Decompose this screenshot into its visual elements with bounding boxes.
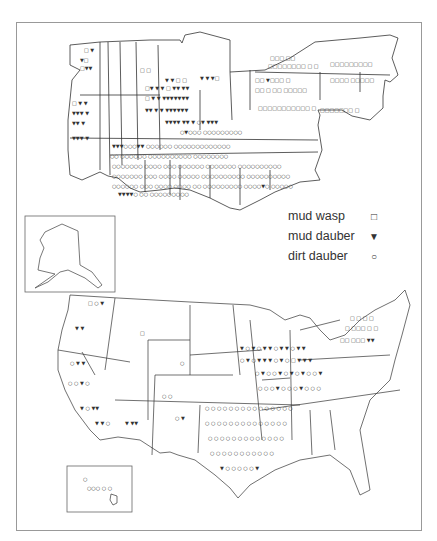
svg-text:□: □ [140, 330, 145, 336]
legend-item-dirt-dauber: dirt dauber ○ [288, 246, 380, 266]
svg-text:▼ ○ ▼ ○ ▼ ▼ ○ ▼ ▼ ○ ▼ ▼: ▼ ○ ▼ ○ ▼ ▼ ○ ▼ ▼ ○ ▼ ▼ [240, 345, 306, 351]
svg-text:▼ ○ ▼▼: ▼ ○ ▼▼ [80, 405, 99, 411]
svg-text:▼ ▼▼: ▼ ▼▼ [125, 420, 138, 426]
svg-text:□ □ □ □: □ □ □ □ [350, 315, 374, 321]
legend-label: dirt dauber [288, 249, 368, 263]
square-icon: □ [368, 211, 380, 222]
svg-text:□□□□□□□ □: □□□□□□□ □ [320, 107, 360, 113]
svg-text:▼▼▼ ▼: ▼▼▼ ▼ [72, 110, 89, 116]
alaska-shape [35, 224, 102, 288]
svg-text:○ ▼: ○ ▼ [175, 415, 185, 421]
svg-text:○▼○○○ ○○○○○○○○○: ○▼○○○ ○○○○○○○○○ [180, 129, 243, 135]
svg-text:○ ▼ ○ ▼ ▼ ▼ ○ ▼ ○ □ ▼ ▼ ▼: ○ ▼ ○ ▼ ▼ ▼ ○ ▼ ○ □ ▼ ▼ ▼ [240, 357, 312, 363]
svg-text:□ □: □ □ [140, 67, 151, 73]
legend-label: mud dauber [288, 229, 368, 243]
svg-text:□□□□ □□□□□: □□□□ □□□□□ [330, 77, 374, 83]
svg-text:▼▼▼○○○▼▼ ○○○○○○ ○○○○○○○○○○○○○: ▼▼▼○○○▼▼ ○○○○○○ ○○○○○○○○○○○○○ [112, 143, 231, 149]
svg-text:□□□□□□□□□: □□□□□□□□□ [330, 61, 373, 67]
svg-text:▼▼▼ ▼: ▼▼▼ ▼ [72, 135, 89, 141]
svg-text:○○○○○○○ ○○○ ○○○○ ○○○○○ ○○○○○○○: ○○○○○○○ ○○○ ○○○○ ○○○○○ ○○○○○○○○○○ ○○○○○○… [112, 173, 291, 179]
svg-text:□ ▼ ▼ ▼▼▼▼▼▼▼: □ ▼ ▼ ▼▼▼▼▼▼▼ [145, 95, 189, 101]
svg-text:○ ○ ○ ○ ○ ○ ○ ○ ○ ○ ○: ○ ○ ○ ○ ○ ○ ○ ○ ○ ○ ○ [210, 450, 275, 456]
svg-text:□▼ ▼ ▼ □ ▼▼ ▼▼: □▼ ▼ ▼ □ ▼▼ ▼▼ [145, 85, 189, 91]
svg-text:□ □□□ □ □: □ □□□ □ □ [345, 325, 378, 331]
svg-text:○ ○ ○ ▼ ○ ○ ○ ▼ ○ ○ ○: ○ ○ ○ ▼ ○ ○ ○ ▼ ○ ○ ○ [258, 385, 321, 391]
svg-text:□□□ □□: □□□ □□ [270, 55, 295, 61]
svg-text:○ ○ ▼ ○: ○ ○ ▼ ○ [68, 380, 90, 386]
svg-text:□ ▼ ▼: □ ▼ ▼ [72, 100, 88, 106]
svg-text:○ ○ ○ ○ ○ ○ ○ ○ ○ ○ ○ ○ ○ ○: ○ ○ ○ ○ ○ ○ ○ ○ ○ ○ ○ ○ ○ ○ [205, 420, 287, 426]
svg-text:▼▼▼▼○ ○○ ○○○○○○○○○: ▼▼▼▼○ ○○ ○○○○○○○○○ [118, 191, 190, 197]
svg-text:▼ ○ ○ ○ ○ ○ ▼: ▼ ○ ○ ○ ○ ○ ▼ [220, 465, 259, 471]
svg-text:○ ○ ○ ○ ○ ○ ○ ○ ○ ○ ○ ○ ○ ○ ○: ○ ○ ○ ○ ○ ○ ○ ○ ○ ○ ○ ○ ○ ○ ○ [205, 405, 293, 411]
svg-text:○○○ ○ ○: ○○○ ○ ○ [87, 485, 113, 491]
maps-svg: □ ▼▼□□▼▼ □ □▼ ▼ □ □▼ ▼ ▼□ □□□ □□□□□□□□□□… [0, 0, 437, 541]
svg-text:▼ ▼ ▼□: ▼ ▼ ▼□ [200, 75, 220, 81]
svg-text:□ ○ ▼: □ ○ ▼ [88, 300, 104, 306]
top-map-symbols: □ ▼▼□□▼▼ □ □▼ ▼ □ □▼ ▼ ▼□ □□□ □□□□□□□□□□… [72, 47, 374, 197]
svg-text:○ ▼ ○ ○ ▼ ○ ▼ ○ ▼ ○ ○ ▼: ○ ▼ ○ ○ ▼ ○ ▼ ○ ▼ ○ ○ ▼ [255, 370, 322, 376]
us-map-symbols: □ ○ ▼▼ ▼○ ▼ ▼ ○ ○ ▼ ○▼ ○ ▼▼▼ ▼ ○ □○○ ○ ▼… [68, 300, 378, 471]
svg-text:□□ □□□ ▼▼: □□ □□□ ▼▼ [340, 337, 375, 343]
svg-text:□ ▼: □ ▼ [84, 47, 94, 53]
svg-text:▼▼▼▼ ▼▼ ▼ ○▼ ▼▼▼: ▼▼▼▼ ▼▼ ▼ ○▼ ▼▼▼ [165, 119, 218, 125]
svg-text:▼▼ ▼: ▼▼ ▼ [72, 120, 85, 126]
svg-text:▼ ▼: ▼ ▼ [75, 325, 84, 331]
svg-text:▼ ▼ ○: ▼ ▼ ○ [95, 420, 111, 426]
svg-text:○: ○ [83, 476, 88, 482]
svg-text:□▼▼: □▼▼ [80, 65, 93, 71]
triangle-down-icon: ▼ [368, 231, 380, 242]
hawaii-islands: ○○○○ ○ ○ [83, 476, 113, 491]
svg-text:□□□□□□□□ □ □: □□□□□□□□ □ □ [268, 63, 319, 69]
svg-text:○○ ○○○○○○ ○○○○○○○○○○ ○○○○○○○○: ○○ ○○○○○○ ○○○○○○○○○○ ○○○○○○○○ [110, 153, 229, 159]
svg-text:○ ○: ○ ○ [162, 393, 173, 399]
svg-text:○ ○ ○ ○ ○ ○ ○ ○ ○ ○ ○ ○ ○: ○ ○ ○ ○ ○ ○ ○ ○ ○ ○ ○ ○ ○ [208, 435, 284, 441]
legend-item-mud-dauber: mud dauber ▼ [288, 226, 380, 246]
legend-label: mud wasp [288, 209, 368, 223]
circle-icon: ○ [368, 251, 380, 262]
svg-text:□□ ▼□□□ □: □□ ▼□□□ □ [255, 77, 291, 83]
svg-text:▼ ▼ □ □: ▼ ▼ □ □ [165, 77, 187, 83]
svg-text:○○○○○○ ○○○ ○○○○ ○○○○ ○○ ○○○○○○: ○○○○○○ ○○○ ○○○○ ○○○○ ○○ ○○○○○○○○○ ○○○○▼○… [112, 183, 293, 189]
svg-text:□□ □ □□ □□□□□: □□ □ □□ □□□□□ [255, 87, 307, 93]
svg-text:□□□□□□□□□□□ □: □□□□□□□□□□□ □ [258, 105, 317, 111]
svg-text:▼▼ ▼ ▼ ▼▼▼▼▼▼: ▼▼ ▼ ▼ ▼▼▼▼▼▼ [145, 107, 188, 113]
svg-text:○○○○○○○ ○○○○ ○○○ ○○○○○○ ○○○○○○: ○○○○○○○ ○○○○ ○○○ ○○○○○○ ○○○○○○○ ○○○○○○○○… [112, 163, 282, 169]
svg-text:▼□: ▼□ [80, 57, 89, 63]
svg-text:○ ▼ ▼: ○ ▼ ▼ [70, 360, 85, 366]
legend-item-mud-wasp: mud wasp □ [288, 206, 380, 226]
svg-text:○: ○ [180, 360, 185, 366]
legend: mud wasp □ mud dauber ▼ dirt dauber ○ [288, 206, 380, 266]
